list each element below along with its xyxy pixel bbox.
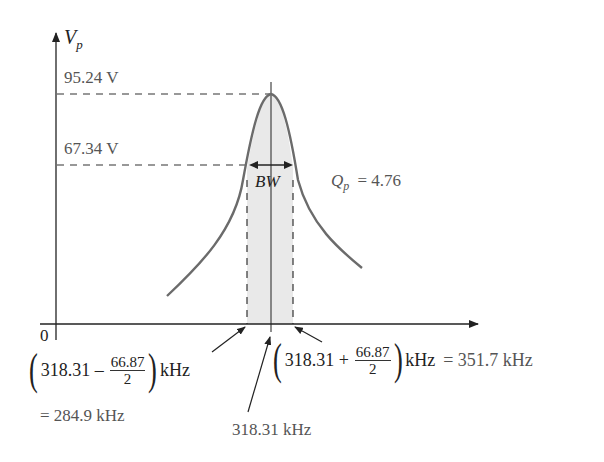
peak-voltage-label: 95.24 V [64,68,118,88]
quality-factor-label: Qp = 4.76 [331,171,401,194]
lower-freq-pointer [212,327,245,352]
upper-frequency-expression: ( 318.31 + 66.87 2 ) kHz = 351.7 kHz [270,340,533,380]
lower-frequency-result: = 284.9 kHz [40,406,125,426]
bandwidth-label: BW [255,172,280,192]
lower-frequency-expression: ( 318.31 – 66.87 2 ) kHz [26,350,190,390]
y-axis-label: Vp [64,26,83,53]
origin-label: 0 [40,326,49,346]
half-power-voltage-label: 67.34 V [64,139,118,159]
center-freq-pointer [248,337,270,412]
center-frequency-label: 318.31 kHz [232,420,311,440]
